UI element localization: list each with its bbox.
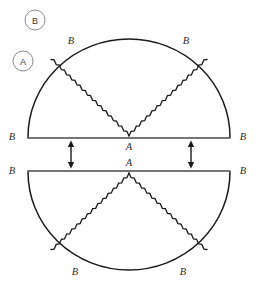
lower-semicircle-group <box>28 171 230 270</box>
callout-b-label: B <box>32 16 38 26</box>
label-lower-apex: A <box>125 157 133 168</box>
upper-seam-right <box>129 60 207 137</box>
label-upper-diameter-left: B <box>9 131 16 142</box>
label-upper-arc-left: B <box>68 35 75 46</box>
lower-seam-left <box>51 173 129 250</box>
arrow-right <box>188 141 194 169</box>
label-upper-arc-right: B <box>183 35 190 46</box>
label-lower-arc-right: B <box>180 266 187 277</box>
label-upper-apex: A <box>125 141 133 152</box>
label-lower-diameter-right: B <box>240 165 247 176</box>
label-lower-diameter-left: B <box>9 165 16 176</box>
lower-arc <box>28 172 230 270</box>
callout-a-label: A <box>20 57 26 67</box>
vertex-labels-group: B B B B A A B B B B <box>9 35 247 277</box>
upper-seam-left <box>51 60 129 137</box>
lower-seam-right <box>129 173 207 250</box>
upper-arc <box>28 39 230 137</box>
upper-semicircle-group <box>28 39 230 138</box>
diagram-canvas: B B B B A A B B B B B A <box>0 0 259 293</box>
label-lower-arc-left: B <box>72 266 79 277</box>
arrow-left <box>68 141 74 169</box>
callout-a-group: A <box>13 51 33 71</box>
label-upper-diameter-right: B <box>240 131 247 142</box>
callout-b-group: B <box>25 10 45 30</box>
geometry-figure: B B B B A A B B B B B A <box>0 0 259 293</box>
